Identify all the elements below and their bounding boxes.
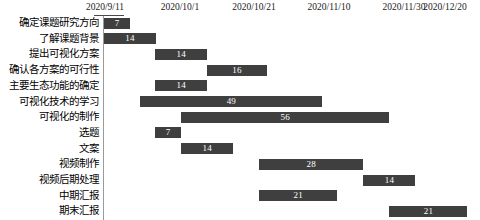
task-label: 可视化技术的学习	[0, 95, 99, 108]
gantt-bar: 14	[155, 49, 207, 60]
task-label: 主要生态功能的确定	[0, 79, 99, 92]
gantt-bar: 7	[155, 127, 181, 138]
task-label: 选题	[0, 126, 99, 139]
gantt-bar: 49	[140, 96, 322, 107]
gantt-bar-value: 14	[155, 49, 207, 60]
gantt-bar-value: 7	[155, 127, 181, 138]
x-axis-tick-label: 2020/12/20	[423, 2, 466, 13]
task-label-column: 确定课题研究方向 了解课题背景 提出可视化方案 确认各方案的可行性 主要生态功能…	[0, 16, 103, 220]
task-label: 中期汇报	[0, 189, 99, 202]
gantt-bar-value: 56	[181, 112, 389, 123]
task-label: 了解课题背景	[0, 32, 99, 45]
x-axis-tick-label: 2020/11/30	[383, 2, 426, 13]
gantt-bar-value: 14	[155, 80, 207, 91]
gantt-bar: 14	[155, 80, 207, 91]
gantt-bar: 14	[363, 175, 415, 186]
gantt-bar: 14	[104, 33, 156, 44]
plot-area: 7 14 14 16 14 49 56 7 14 28 14	[103, 16, 480, 220]
x-axis-tick-label: 2020/11/10	[308, 2, 351, 13]
gantt-bar-value: 14	[181, 143, 233, 154]
gantt-bar: 7	[104, 18, 130, 29]
x-axis-header: 2020/9/11 2020/10/1 2020/10/21 2020/11/1…	[0, 0, 480, 16]
gantt-bar: 56	[181, 112, 389, 123]
task-label: 期末汇报	[0, 204, 99, 217]
gantt-bar: 21	[259, 190, 337, 201]
task-label: 确定课题研究方向	[0, 16, 99, 29]
gantt-bar-value: 14	[104, 33, 156, 44]
task-label: 提出可视化方案	[0, 47, 99, 60]
gantt-bar-value: 49	[140, 96, 322, 107]
gantt-bar: 28	[259, 159, 363, 170]
x-axis-tick-label: 2020/10/21	[232, 2, 275, 13]
task-label: 视频后期处理	[0, 173, 99, 186]
task-label: 文案	[0, 142, 99, 155]
gantt-bar-value: 21	[389, 206, 467, 217]
gantt-bar: 14	[181, 143, 233, 154]
gantt-bar-value: 28	[259, 159, 363, 170]
y-axis-line	[103, 16, 104, 220]
task-label: 视频制作	[0, 157, 99, 170]
gantt-bar: 16	[207, 65, 267, 76]
x-axis-origin-tick	[94, 15, 124, 16]
task-label: 可视化的制作	[0, 110, 99, 123]
gantt-bar-value: 7	[104, 18, 130, 29]
task-label: 确认各方案的可行性	[0, 63, 99, 76]
gantt-chart: 2020/9/11 2020/10/1 2020/10/21 2020/11/1…	[0, 0, 480, 220]
gantt-bar-value: 14	[363, 175, 415, 186]
x-axis-tick-label: 2020/10/1	[161, 2, 200, 13]
gantt-bar-value: 16	[207, 65, 267, 76]
gantt-bar-value: 21	[259, 190, 337, 201]
gantt-bar: 21	[389, 206, 467, 217]
x-axis-tick-label: 2020/9/11	[86, 2, 124, 13]
